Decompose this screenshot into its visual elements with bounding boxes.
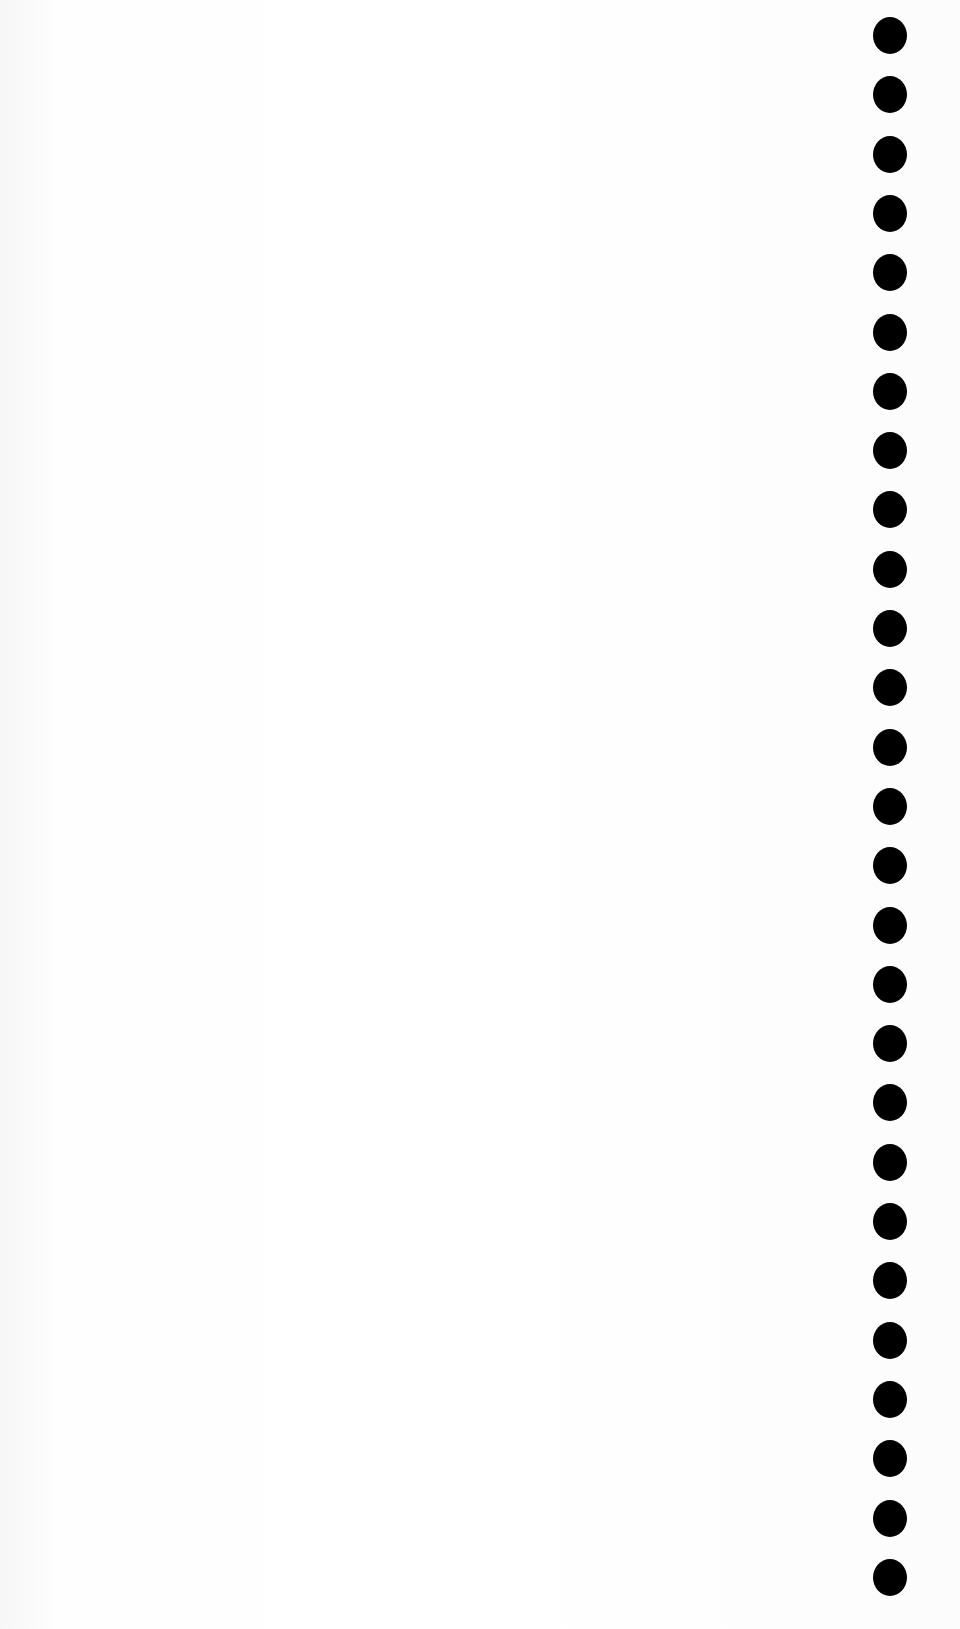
punch-hole-icon: [873, 966, 907, 1003]
punch-hole-icon: [873, 847, 907, 884]
punch-hole-icon: [873, 254, 907, 291]
punch-hole-icon: [873, 1559, 907, 1596]
punch-hole-icon: [873, 76, 907, 113]
punch-hole-icon: [873, 195, 907, 232]
punch-hole-icon: [873, 314, 907, 351]
punch-hole-icon: [873, 373, 907, 410]
punch-hole-icon: [873, 551, 907, 588]
punch-hole-icon: [873, 136, 907, 173]
punch-hole-icon: [873, 1440, 907, 1477]
punch-hole-icon: [873, 1203, 907, 1240]
punch-hole-icon: [873, 491, 907, 528]
punch-hole-icon: [873, 17, 907, 54]
blank-page: [0, 0, 960, 1629]
punch-hole-icon: [873, 1322, 907, 1359]
punch-hole-icon: [873, 907, 907, 944]
punch-hole-icon: [873, 669, 907, 706]
punch-hole-icon: [873, 1500, 907, 1537]
punch-hole-icon: [873, 432, 907, 469]
punch-hole-icon: [873, 788, 907, 825]
punch-hole-icon: [873, 729, 907, 766]
punch-hole-icon: [873, 1144, 907, 1181]
punch-hole-icon: [873, 1381, 907, 1418]
punch-hole-icon: [873, 1084, 907, 1121]
punch-hole-icon: [873, 610, 907, 647]
punch-hole-icon: [873, 1025, 907, 1062]
punch-hole-icon: [873, 1262, 907, 1299]
